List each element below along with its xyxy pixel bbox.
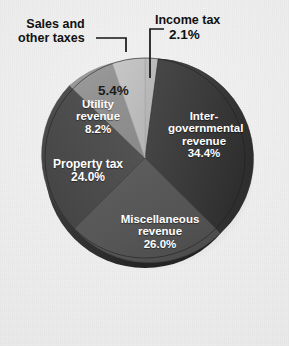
slice-value-miscellaneous-revenue: 26.0% xyxy=(112,238,208,250)
slice-label-line1: Utility xyxy=(82,98,114,110)
slice-label-line1: Miscellaneous xyxy=(121,213,200,225)
slice-value-income-tax: 2.1% xyxy=(169,28,220,43)
leader-line-sales-and-other-taxes xyxy=(96,38,126,52)
slice-label-line1: Inter- xyxy=(190,110,219,122)
slice-label-miscellaneous-revenue: Miscellaneous revenue 26.0% xyxy=(112,213,208,250)
slice-label-sales-and-other-taxes: Sales and other taxes xyxy=(18,18,85,45)
slice-label-line3: revenue xyxy=(182,135,226,147)
slice-label-line2: revenue xyxy=(76,110,120,122)
slice-label-intergovernmental-revenue: Inter- governmental revenue 34.4% xyxy=(168,110,240,160)
slice-value-property-tax: 24.0% xyxy=(42,171,134,184)
slice-value-utility-revenue: 8.2% xyxy=(62,123,134,135)
slice-value-intergovernmental-revenue: 34.4% xyxy=(168,147,240,159)
slice-label-line2: governmental xyxy=(168,122,243,134)
slice-label-line2: revenue xyxy=(138,225,182,237)
slice-value-sales-and-other-taxes: 5.4% xyxy=(98,84,129,99)
slice-label-line1: Property tax xyxy=(53,157,123,171)
pie-chart-figure: Sales and other taxes Income tax 2.1% 5.… xyxy=(0,0,289,346)
slice-label-utility-revenue: Utility revenue 8.2% xyxy=(62,98,134,135)
slice-label-property-tax: Property tax 24.0% xyxy=(42,158,134,184)
slice-label-line1: Income tax xyxy=(155,13,220,27)
slice-label-income-tax: Income tax 2.1% xyxy=(155,14,220,42)
slice-label-line1: Sales and xyxy=(26,17,84,31)
slice-label-line2: other taxes xyxy=(18,31,85,45)
